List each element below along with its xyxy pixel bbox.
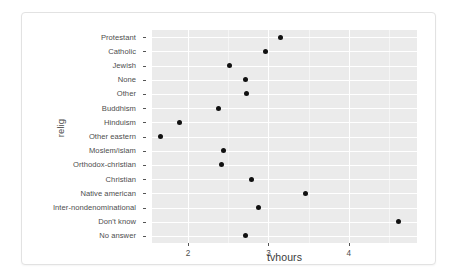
data-point [177, 120, 182, 125]
gridline-major-horizontal [152, 222, 417, 223]
y-axis-tick-label: Native american [80, 188, 136, 199]
gridline-major-horizontal [152, 94, 417, 95]
y-axis-tick-mark [143, 208, 146, 209]
gridline-major-horizontal [152, 51, 417, 52]
chart-card: relig ProtestantCatholicJewishNoneOtherB… [21, 12, 436, 265]
screenshot-root: relig ProtestantCatholicJewishNoneOtherB… [0, 0, 455, 280]
y-axis-tick-mark [143, 165, 146, 166]
data-point [263, 49, 268, 54]
data-point [221, 148, 226, 153]
gridline-major-horizontal [152, 66, 417, 67]
y-axis-tick-mark [143, 193, 146, 194]
gridline-major-horizontal [152, 37, 417, 38]
gridline-major-horizontal [152, 193, 417, 194]
gridline-major-horizontal [152, 108, 417, 109]
y-axis-tick-labels: ProtestantCatholicJewishNoneOtherBuddhis… [22, 30, 146, 243]
y-axis-tick-mark [143, 37, 146, 38]
x-axis-tick-mark [268, 243, 269, 246]
data-point [243, 233, 248, 238]
y-axis-tick-mark [143, 108, 146, 109]
y-axis-tick-label: Hinduism [104, 117, 136, 128]
y-axis-tick-mark [143, 179, 146, 180]
y-axis-tick-label: Inter-nondenominational [53, 202, 136, 213]
gridline-major-horizontal [152, 80, 417, 81]
data-point [227, 63, 232, 68]
y-axis-tick-label: None [118, 74, 136, 85]
y-axis-tick-label: Jewish [112, 60, 136, 71]
gridline-major-horizontal [152, 137, 417, 138]
gridline-major-horizontal [152, 151, 417, 152]
y-axis-tick-mark [143, 151, 146, 152]
y-axis-tick-mark [143, 80, 146, 81]
y-axis-tick-label: Moslem/islam [89, 145, 136, 156]
gridline-major-horizontal [152, 122, 417, 123]
y-axis-tick-mark [143, 222, 146, 223]
gridline-major-horizontal [152, 208, 417, 209]
gridline-major-horizontal [152, 165, 417, 166]
data-point [216, 106, 221, 111]
gridline-major-horizontal [152, 236, 417, 237]
x-axis-title: tvhours [152, 251, 417, 263]
x-axis-tick-mark [188, 243, 189, 246]
y-axis-tick-mark [143, 94, 146, 95]
y-axis-tick-label: Other eastern [89, 131, 136, 142]
y-axis-tick-label: Catholic [108, 46, 136, 57]
y-axis-tick-label: Buddhism [102, 103, 136, 114]
y-axis-tick-label: Don't know [98, 216, 136, 227]
gridline-major-horizontal [152, 179, 417, 180]
y-axis-tick-mark [143, 122, 146, 123]
dot-plot-figure: relig ProtestantCatholicJewishNoneOtherB… [22, 13, 437, 266]
y-axis-tick-label: Orthodox-christian [73, 159, 136, 170]
y-axis-tick-mark [143, 137, 146, 138]
data-point [244, 91, 249, 96]
data-point [256, 205, 261, 210]
y-axis-tick-label: No answer [99, 230, 136, 241]
data-point [278, 35, 283, 40]
y-axis-tick-label: Protestant [101, 32, 136, 43]
data-point [249, 177, 254, 182]
y-axis-tick-label: Christian [106, 174, 136, 185]
y-axis-tick-mark [143, 51, 146, 52]
plot-panel [152, 30, 417, 243]
data-point [303, 191, 308, 196]
y-axis-tick-label: Other [117, 88, 136, 99]
data-point [158, 134, 163, 139]
y-axis-tick-mark [143, 66, 146, 67]
x-axis-tick-mark [349, 243, 350, 246]
data-point [243, 77, 248, 82]
data-point [396, 219, 401, 224]
data-point [219, 162, 224, 167]
y-axis-tick-mark [143, 236, 146, 237]
